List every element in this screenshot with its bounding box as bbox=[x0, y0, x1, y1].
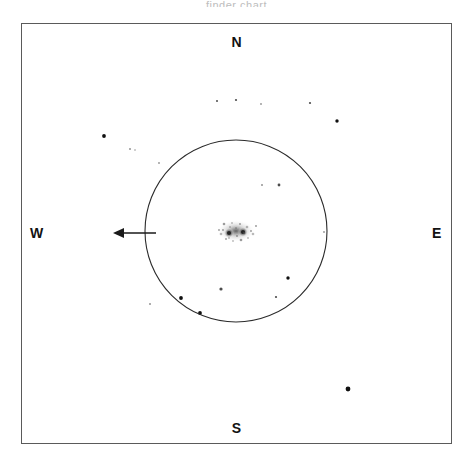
sky-field-frame bbox=[21, 23, 452, 444]
compass-label-south: S bbox=[0, 421, 473, 435]
chart-title: finder chart bbox=[0, 0, 473, 7]
compass-label-east: E bbox=[432, 226, 441, 240]
compass-label-north: N bbox=[0, 35, 473, 49]
compass-label-west: W bbox=[30, 226, 43, 240]
finder-chart: finder chart N S W E bbox=[0, 0, 473, 463]
